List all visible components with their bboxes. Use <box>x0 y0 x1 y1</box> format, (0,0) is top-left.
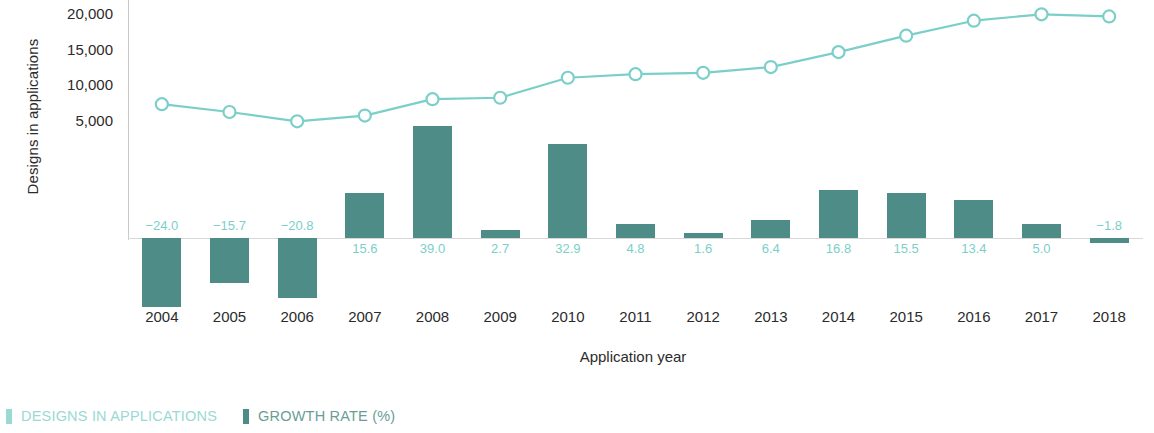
line-marker-designs <box>900 30 912 42</box>
x-axis-tick-label: 2011 <box>602 308 670 325</box>
bar-value-label: 5.0 <box>1008 241 1076 256</box>
bar-value-label: 13.4 <box>940 241 1008 256</box>
bar-value-label: −20.8 <box>263 218 331 233</box>
legend-item-designs[interactable]: DESIGNS IN APPLICATIONS <box>6 408 217 424</box>
bar-value-label: 15.6 <box>331 241 399 256</box>
bar-value-label: 15.5 <box>872 241 940 256</box>
y-axis-tick-label: 15,000 <box>23 41 113 58</box>
legend-swatch-designs <box>6 409 12 424</box>
legend-label-growth-rate: GROWTH RATE (%) <box>258 408 395 424</box>
bar-value-label: −24.0 <box>128 218 196 233</box>
line-marker-designs <box>291 115 303 127</box>
x-axis-tick-label: 2012 <box>669 308 737 325</box>
x-axis-tick-label: 2015 <box>872 308 940 325</box>
x-axis-tick-label: 2004 <box>128 308 196 325</box>
x-axis-tick-label: 2014 <box>805 308 873 325</box>
line-marker-designs <box>562 72 574 84</box>
x-axis-tick-label: 2007 <box>331 308 399 325</box>
line-marker-designs <box>630 68 642 80</box>
x-axis-tick-label: 2005 <box>196 308 264 325</box>
line-marker-designs <box>968 15 980 27</box>
line-marker-designs <box>494 92 506 104</box>
bar-value-label: 2.7 <box>466 241 534 256</box>
y-axis-tick-label: 10,000 <box>23 76 113 93</box>
legend-swatch-growth-rate <box>243 409 249 424</box>
x-axis-tick-label: 2006 <box>263 308 331 325</box>
line-marker-designs <box>833 46 845 58</box>
x-axis-tick-label: 2013 <box>737 308 805 325</box>
bar-value-label: 4.8 <box>602 241 670 256</box>
x-axis-tick-label: 2018 <box>1075 308 1143 325</box>
line-marker-designs <box>1103 10 1115 22</box>
bar-value-label: 6.4 <box>737 241 805 256</box>
y-axis-tick-label: 20,000 <box>23 5 113 22</box>
chart-container: Designs in applications Application year… <box>0 0 1154 433</box>
bar-value-label: 32.9 <box>534 241 602 256</box>
line-marker-designs <box>697 67 709 79</box>
bar-value-label: 39.0 <box>399 241 467 256</box>
chart-legend: DESIGNS IN APPLICATIONS GROWTH RATE (%) <box>6 408 395 424</box>
x-axis-tick-label: 2008 <box>399 308 467 325</box>
line-marker-designs <box>224 106 236 118</box>
legend-item-growth-rate[interactable]: GROWTH RATE (%) <box>243 408 395 424</box>
legend-label-designs: DESIGNS IN APPLICATIONS <box>21 408 217 424</box>
x-axis-tick-label: 2009 <box>466 308 534 325</box>
x-axis-tick-label: 2010 <box>534 308 602 325</box>
y-axis-tick-label: 5,000 <box>23 112 113 129</box>
plot-area: 20,00015,00010,0005,000 −24.0−15.7−20.81… <box>128 0 1143 300</box>
bar-value-label: 1.6 <box>669 241 737 256</box>
line-marker-designs <box>156 98 168 110</box>
x-axis-tick-label: 2016 <box>940 308 1008 325</box>
bar-value-label: −1.8 <box>1075 218 1143 233</box>
bar-value-label: 16.8 <box>805 241 873 256</box>
x-axis-tick-label: 2017 <box>1008 308 1076 325</box>
x-axis-title: Application year <box>128 348 1138 365</box>
line-marker-designs <box>427 93 439 105</box>
line-marker-designs <box>1036 8 1048 20</box>
bar-value-label: −15.7 <box>196 218 264 233</box>
line-marker-designs <box>765 61 777 73</box>
line-marker-designs <box>359 110 371 122</box>
